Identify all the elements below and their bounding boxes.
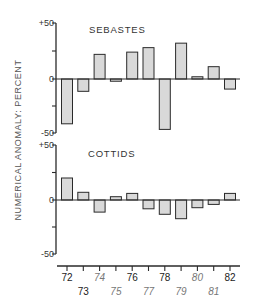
- bar-73: [78, 192, 89, 200]
- panel-sebastes: [52, 23, 240, 133]
- bar-76: [127, 52, 138, 79]
- bar-82: [225, 193, 236, 200]
- bar-76: [127, 193, 138, 200]
- bar-82: [225, 79, 236, 89]
- bar-80: [192, 200, 203, 208]
- x-tick-label-80: 80: [192, 272, 203, 283]
- bar-81: [208, 67, 219, 79]
- bar-72: [62, 79, 73, 124]
- x-tick-label-82: 82: [224, 272, 235, 283]
- bar-79: [176, 43, 187, 79]
- bar-78: [159, 200, 170, 214]
- x-tick-label-72: 72: [61, 272, 72, 283]
- x-tick-label-81: 81: [208, 286, 219, 297]
- x-tick-label-74: 74: [94, 272, 105, 283]
- bar-72: [62, 178, 73, 200]
- bar-74: [94, 54, 105, 79]
- bar-77: [143, 48, 154, 79]
- x-tick-label-77: 77: [143, 286, 154, 297]
- bar-81: [208, 200, 219, 204]
- bar-78: [159, 79, 170, 129]
- bar-chart: [0, 0, 254, 308]
- x-tick-label-78: 78: [159, 272, 170, 283]
- x-tick-label-73: 73: [78, 286, 89, 297]
- bar-74: [94, 200, 105, 212]
- x-tick-label-75: 75: [110, 286, 121, 297]
- bar-73: [78, 79, 89, 91]
- x-axis: [57, 266, 240, 271]
- x-tick-label-79: 79: [176, 286, 187, 297]
- bar-77: [143, 200, 154, 209]
- x-tick-label-76: 76: [127, 272, 138, 283]
- bar-79: [176, 200, 187, 219]
- panel-cottids: [52, 145, 240, 254]
